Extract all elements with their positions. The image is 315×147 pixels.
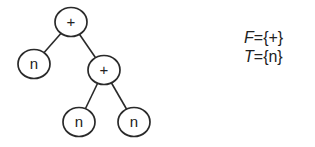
terminal-set-equals: = xyxy=(254,48,263,65)
terminal-set: T={n} xyxy=(244,47,283,66)
node-label: + xyxy=(100,61,109,78)
tree-node-root: + xyxy=(55,8,87,37)
terminal-set-symbol: T xyxy=(244,48,254,65)
set-definitions: F={+} T={n} xyxy=(244,28,283,66)
function-set: F={+} xyxy=(244,28,283,47)
node-label: n xyxy=(75,113,83,130)
node-label: n xyxy=(30,55,38,72)
function-set-symbol: F xyxy=(244,29,254,46)
tree-node-left-leaf: n xyxy=(18,50,50,79)
function-set-value: {+} xyxy=(263,29,283,46)
node-label: n xyxy=(130,113,138,130)
tree-node-bottom-left-leaf: n xyxy=(63,108,95,137)
expression-tree: +n+nn xyxy=(0,0,315,147)
function-set-equals: = xyxy=(254,29,263,46)
tree-nodes: +n+nn xyxy=(18,8,150,137)
tree-node-bottom-right-leaf: n xyxy=(118,108,150,137)
node-label: + xyxy=(67,13,76,30)
terminal-set-value: {n} xyxy=(263,48,283,65)
tree-node-right-op: + xyxy=(88,56,120,85)
